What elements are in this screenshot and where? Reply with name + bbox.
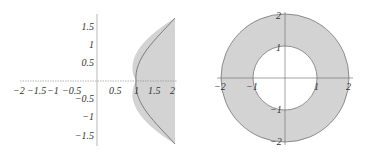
svg-text:2: 2 — [170, 85, 175, 96]
svg-text:−1.5: −1.5 — [27, 85, 46, 96]
svg-text:1.5: 1.5 — [82, 21, 95, 32]
svg-text:1: 1 — [276, 42, 281, 53]
svg-text:−0.5: −0.5 — [75, 93, 94, 104]
svg-text:1.5: 1.5 — [148, 85, 161, 96]
svg-text:−1: −1 — [246, 81, 258, 92]
svg-text:−1: −1 — [82, 111, 94, 122]
svg-text:0.5: 0.5 — [109, 85, 122, 96]
x-tick-labels: −2 −1.5 −1 −0.5 0.5 1 1.5 2 — [13, 85, 175, 96]
svg-text:2: 2 — [276, 10, 281, 21]
svg-text:−2: −2 — [270, 136, 282, 147]
svg-text:−1: −1 — [47, 85, 59, 96]
svg-text:1: 1 — [89, 39, 94, 50]
svg-text:1: 1 — [314, 81, 319, 92]
hyperbola-region-plot: −2 −1.5 −1 −0.5 0.5 1 1.5 2 1.5 1 0.5 −0… — [0, 0, 190, 153]
svg-text:2: 2 — [346, 81, 351, 92]
svg-text:−2: −2 — [13, 85, 25, 96]
svg-text:0.5: 0.5 — [82, 57, 95, 68]
annulus-plot: −2 −1 1 2 2 1 −1 −2 — [200, 0, 369, 153]
svg-text:−2: −2 — [214, 81, 226, 92]
svg-text:1: 1 — [134, 85, 139, 96]
svg-text:−1.5: −1.5 — [75, 130, 94, 141]
svg-text:−1: −1 — [270, 104, 282, 115]
